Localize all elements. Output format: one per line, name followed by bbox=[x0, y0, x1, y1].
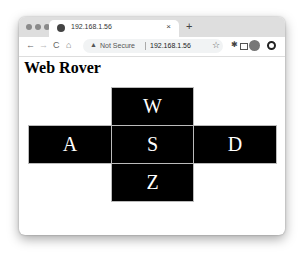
cast-icon[interactable] bbox=[240, 43, 248, 50]
back-button[interactable]: Z bbox=[111, 163, 194, 202]
reload-icon[interactable]: C bbox=[53, 40, 60, 50]
bookmark-star-icon[interactable]: ☆ bbox=[212, 40, 220, 50]
forward-icon[interactable]: → bbox=[39, 40, 48, 50]
menu-icon[interactable] bbox=[267, 41, 276, 50]
new-tab-button[interactable]: + bbox=[186, 20, 192, 32]
url-text[interactable]: 192.168.1.56 bbox=[150, 42, 191, 49]
stop-button[interactable]: S bbox=[111, 125, 194, 164]
profile-avatar[interactable] bbox=[249, 40, 260, 51]
browser-tab[interactable]: 192.168.1.56 × bbox=[49, 20, 179, 37]
home-icon[interactable]: ⌂ bbox=[66, 40, 71, 50]
forward-button[interactable]: W bbox=[111, 87, 194, 126]
divider bbox=[145, 42, 146, 50]
right-button[interactable]: D bbox=[193, 125, 277, 164]
left-button[interactable]: A bbox=[28, 125, 112, 164]
globe-icon bbox=[57, 24, 65, 32]
toolbar: ← → C ⌂ ▲ Not Secure 192.168.1.56 ☆ ✱ bbox=[19, 37, 285, 57]
address-bar[interactable]: ▲ Not Secure 192.168.1.56 ☆ bbox=[83, 39, 223, 53]
warning-icon: ▲ bbox=[90, 41, 97, 48]
back-icon[interactable]: ← bbox=[26, 40, 35, 50]
security-label[interactable]: Not Secure bbox=[100, 42, 135, 49]
tab-strip: 192.168.1.56 × + bbox=[19, 17, 285, 37]
minimize-window-button[interactable] bbox=[35, 24, 41, 30]
page-title: Web Rover bbox=[24, 59, 101, 77]
close-window-button[interactable] bbox=[26, 24, 32, 30]
page-content: Web Rover W A S D Z bbox=[19, 57, 285, 235]
browser-window: 192.168.1.56 × + ← → C ⌂ ▲ Not Secure 19… bbox=[19, 17, 285, 235]
window-controls bbox=[26, 24, 50, 30]
close-tab-icon[interactable]: × bbox=[166, 22, 171, 31]
tab-title: 192.168.1.56 bbox=[71, 23, 112, 30]
extensions-icon[interactable]: ✱ bbox=[231, 40, 238, 49]
